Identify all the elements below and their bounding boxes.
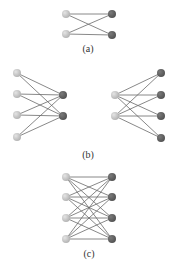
dark-node — [108, 10, 116, 18]
graph-canvas — [0, 0, 170, 266]
caption-c: (c) — [83, 249, 94, 259]
dark-node — [108, 193, 116, 201]
edge — [17, 95, 63, 115]
light-node — [62, 193, 70, 201]
light-node — [13, 90, 21, 98]
edges-b-left — [17, 73, 63, 137]
edge — [17, 116, 63, 137]
edge — [115, 95, 161, 138]
light-node — [62, 235, 70, 243]
light-node — [62, 214, 70, 222]
light-node — [13, 69, 21, 77]
light-node — [13, 133, 21, 141]
dark-node — [157, 91, 165, 99]
edge — [17, 73, 63, 95]
edges-c — [66, 177, 112, 239]
dark-node — [108, 173, 116, 181]
dark-node — [59, 91, 67, 99]
dark-node — [108, 214, 116, 222]
edge — [115, 73, 161, 95]
light-node — [111, 91, 119, 99]
dark-node — [157, 69, 165, 77]
dark-node — [108, 235, 116, 243]
light-node — [111, 112, 119, 120]
light-node — [13, 111, 21, 119]
dark-node — [59, 112, 67, 120]
edge — [17, 94, 63, 95]
edges-b-right — [115, 73, 161, 138]
edge — [66, 34, 112, 35]
light-node — [62, 30, 70, 38]
edge — [115, 73, 161, 116]
dark-node — [157, 134, 165, 142]
dark-node — [108, 31, 116, 39]
edge — [115, 116, 161, 138]
bipartite-graphs-figure: (a) (b) (c) — [0, 0, 170, 266]
light-node — [62, 173, 70, 181]
edges-a — [66, 14, 112, 35]
caption-a: (a) — [82, 44, 93, 54]
caption-b: (b) — [82, 150, 94, 160]
dark-node — [157, 112, 165, 120]
light-node — [62, 10, 70, 18]
